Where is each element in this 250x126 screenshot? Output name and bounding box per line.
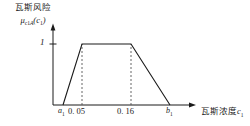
x-tick-label-a1: a1 [58,107,65,117]
membership-curve [63,44,170,105]
x-tick-a1-sub: 1 [62,111,65,117]
x-axis-title-sub: 1 [241,112,244,118]
y-axis-title-cjk: 瓦斯风险 [9,2,57,13]
x-tick-label-016: 0. 16 [117,107,134,116]
y-axis-title: 瓦斯风险 μc1A(c1) [9,2,57,27]
mu-symbol: μ [20,15,24,25]
y-tick-label-1: 1 [40,38,45,47]
x-tick-b1-sub: 1 [170,111,173,117]
x-tick-label-b1: b1 [166,107,173,117]
x-axis-arrowhead [189,103,196,108]
x-axis-title-cjk: 瓦斯浓度 [201,106,237,116]
arg-subscript: 1 [40,20,43,26]
figure-container: 瓦斯风险 μc1A(c1) 1 a1 0. 05 0. 16 b1 瓦斯浓度c1 [0,0,250,126]
y-axis-title-math: μc1A(c1) [9,14,57,27]
x-axis-title: 瓦斯浓度c1 [201,104,243,118]
paren-close: ) [43,15,46,25]
x-tick-label-005: 0. 05 [68,107,85,116]
mu-subscript-set: A [30,17,33,29]
